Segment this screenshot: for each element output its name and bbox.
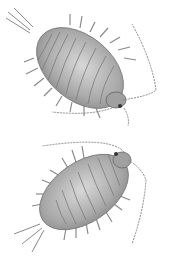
upper-eye: [118, 104, 122, 108]
lower-uropods: [14, 224, 44, 252]
lower-eye: [114, 152, 118, 156]
upper-body: [21, 11, 139, 124]
lower-isopod: [14, 139, 146, 252]
upper-isopod: [6, 8, 156, 126]
upper-uropods: [6, 8, 33, 33]
illustration-canvas: [0, 0, 182, 260]
